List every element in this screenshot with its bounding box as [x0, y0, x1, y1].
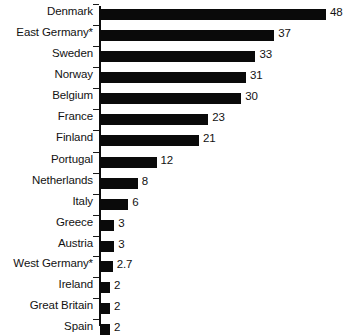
category-label: France: [58, 111, 93, 122]
axis-tick: [93, 109, 99, 110]
bar: [100, 135, 199, 146]
bar-row: Finland21: [0, 135, 355, 146]
bar-row: Greece3: [0, 220, 355, 231]
bar-row: West Germany*2.7: [0, 261, 355, 272]
bar-value-label: 37: [278, 28, 291, 39]
axis-tick: [93, 298, 99, 299]
bar-value-label: 33: [259, 49, 272, 60]
category-label: Portugal: [51, 154, 93, 165]
bar-value-label: 2: [114, 280, 120, 291]
plot-area: Denmark48East Germany*37Sweden33Norway31…: [0, 0, 355, 335]
bar-row: Spain2: [0, 324, 355, 335]
axis-tick: [93, 173, 99, 174]
bar: [100, 282, 110, 293]
bar: [100, 72, 246, 83]
bar: [100, 114, 208, 125]
axis-tick: [93, 25, 99, 26]
bar-row: Netherlands8: [0, 178, 355, 189]
axis-tick: [93, 319, 99, 320]
axis-tick: [93, 67, 99, 68]
bar-value-label: 23: [212, 112, 225, 123]
bar: [100, 220, 114, 231]
bar-row: Great Britain2: [0, 303, 355, 314]
axis-tick: [93, 194, 99, 195]
category-label: Austria: [58, 238, 93, 249]
category-label: Ireland: [59, 279, 93, 290]
bar-value-label: 3: [118, 239, 124, 250]
bar-row: East Germany*37: [0, 30, 355, 41]
category-label: Great Britain: [30, 300, 93, 311]
category-label: Belgium: [52, 90, 93, 101]
bar-value-label: 31: [250, 70, 263, 81]
bar-value-label: 3: [118, 218, 124, 229]
bar: [100, 199, 128, 210]
category-label: West Germany*: [13, 258, 93, 269]
category-label: Finland: [56, 132, 93, 143]
bar-row: Denmark48: [0, 9, 355, 20]
bar-row: Austria3: [0, 241, 355, 252]
bar-value-label: 12: [161, 155, 174, 166]
bar: [100, 30, 274, 41]
bar-row: France23: [0, 114, 355, 125]
bar: [100, 9, 326, 20]
bar: [100, 303, 110, 314]
category-label: Greece: [56, 217, 93, 228]
category-label: Spain: [64, 321, 93, 332]
bar-row: Sweden33: [0, 51, 355, 62]
bar-value-label: 6: [132, 197, 138, 208]
bar: [100, 51, 255, 62]
bar: [100, 241, 114, 252]
bar-value-label: 48: [330, 7, 343, 18]
axis-tick: [93, 236, 99, 237]
axis-tick: [93, 215, 99, 216]
bar-value-label: 2: [114, 301, 120, 312]
bar: [100, 93, 241, 104]
category-label: Sweden: [52, 48, 93, 59]
category-label: Italy: [72, 196, 93, 207]
bar: [100, 261, 113, 272]
bar-row: Norway31: [0, 72, 355, 83]
category-label: Denmark: [47, 6, 93, 17]
axis-tick: [93, 130, 99, 131]
category-label: Norway: [55, 69, 93, 80]
bar-value-label: 8: [142, 176, 148, 187]
bar-value-label: 2: [114, 322, 120, 333]
bar: [100, 178, 138, 189]
bar-value-label: 30: [245, 91, 258, 102]
bar-row: Ireland2: [0, 282, 355, 293]
bar-chart: Denmark48East Germany*37Sweden33Norway31…: [0, 0, 355, 335]
axis-tick: [93, 152, 99, 153]
axis-tick: [93, 256, 99, 257]
bar-value-label: 2.7: [117, 259, 133, 270]
axis-tick: [93, 4, 99, 5]
category-label: East Germany*: [16, 27, 93, 38]
bar-value-label: 21: [203, 133, 216, 144]
axis-tick: [93, 88, 99, 89]
axis-tick: [93, 277, 99, 278]
category-label: Netherlands: [32, 175, 93, 186]
bar-row: Portugal12: [0, 157, 355, 168]
bar: [100, 324, 110, 335]
axis-tick: [93, 46, 99, 47]
bar-row: Italy6: [0, 199, 355, 210]
bar-row: Belgium30: [0, 93, 355, 104]
bar: [100, 157, 157, 168]
